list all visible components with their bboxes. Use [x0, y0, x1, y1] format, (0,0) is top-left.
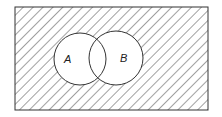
set-b-label: B: [120, 52, 127, 64]
set-a-label: A: [63, 53, 71, 65]
universe-hatch: [15, 7, 208, 110]
venn-diagram: A B: [0, 0, 222, 117]
